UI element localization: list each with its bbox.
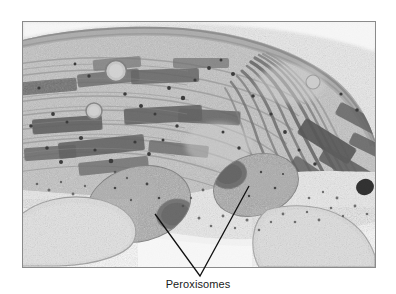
micrograph-image: [22, 21, 376, 268]
micrograph-svg: [23, 22, 375, 267]
peroxisomes-label: Peroxisomes: [0, 278, 396, 290]
figure-electron-micrograph: Peroxisomes: [0, 0, 396, 294]
